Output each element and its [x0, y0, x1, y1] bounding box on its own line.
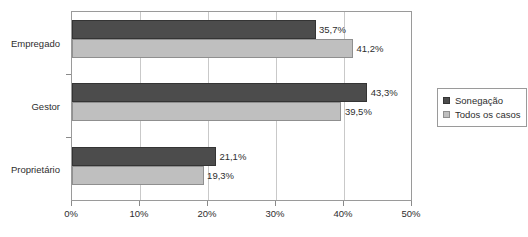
legend-item-todos-os-casos: Todos os casos — [443, 107, 520, 121]
x-axis-label-30: 30% — [265, 208, 284, 219]
x-axis-tick — [411, 201, 412, 206]
legend: Sonegação Todos os casos — [437, 88, 527, 127]
bar-todos-proprietario — [72, 166, 204, 185]
plot-area: 35,7% 41,2% 43,3% 39,5% 21,1% 19,3% — [71, 11, 412, 201]
category-band: 21,1% 19,3% — [72, 139, 411, 202]
y-axis-tick — [66, 74, 71, 75]
category-band: 43,3% 39,5% — [72, 75, 411, 138]
x-axis-tick — [343, 201, 344, 206]
bar-todos-empregado — [72, 39, 353, 58]
bar-value-label: 35,7% — [319, 20, 346, 39]
legend-swatch-icon — [443, 111, 450, 118]
bar-value-label: 19,3% — [207, 166, 234, 185]
x-axis-tick — [71, 201, 72, 206]
bar-value-label: 41,2% — [357, 39, 384, 58]
x-axis-label-50: 50% — [401, 208, 420, 219]
category-label-empregado: Empregado — [11, 37, 60, 48]
bar-chart: 35,7% 41,2% 43,3% 39,5% 21,1% 19,3% Empr… — [0, 0, 528, 237]
x-axis-tick — [207, 201, 208, 206]
legend-label: Todos os casos — [455, 109, 520, 120]
x-axis-label-40: 40% — [333, 208, 352, 219]
legend-label: Sonegação — [455, 95, 503, 106]
legend-swatch-icon — [443, 97, 450, 104]
bar-sonegacao-proprietario — [72, 147, 216, 166]
x-axis-label-10: 10% — [129, 208, 148, 219]
y-axis-tick — [66, 137, 71, 138]
x-axis-label-0: 0% — [64, 208, 78, 219]
bar-todos-gestor — [72, 102, 341, 121]
legend-item-sonegacao: Sonegação — [443, 93, 520, 107]
category-band: 35,7% 41,2% — [72, 12, 411, 75]
x-axis-tick — [139, 201, 140, 206]
bar-value-label: 21,1% — [219, 147, 246, 166]
category-label-proprietario: Proprietário — [11, 164, 60, 175]
bar-sonegacao-gestor — [72, 83, 367, 102]
category-label-gestor: Gestor — [31, 101, 60, 112]
bar-value-label: 43,3% — [371, 83, 398, 102]
bar-value-label: 39,5% — [345, 102, 372, 121]
bar-sonegacao-empregado — [72, 20, 316, 39]
x-axis-tick — [275, 201, 276, 206]
y-axis: Empregado Gestor Proprietário — [0, 11, 66, 201]
x-axis-label-20: 20% — [197, 208, 216, 219]
